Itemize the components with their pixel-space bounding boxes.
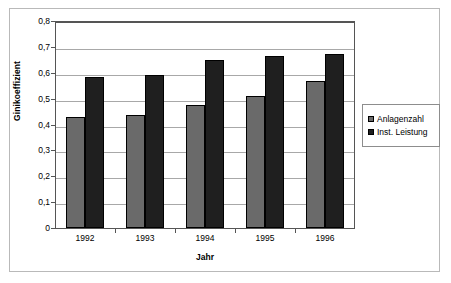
x-axis-tick-mark	[115, 229, 116, 233]
y-axis-tick-label: 0,6	[20, 69, 50, 78]
y-axis-tick-mark	[51, 228, 55, 229]
x-axis-tick-label: 1992	[62, 233, 108, 243]
legend-swatch-icon	[368, 116, 374, 122]
x-axis-tick-mark	[235, 229, 236, 233]
x-axis-tick-labels: 19921993199419951996	[55, 233, 355, 247]
x-axis-tick-mark	[295, 229, 296, 233]
chart-figure: Ginikoeffizient 00,10,20,30,40,50,60,70,…	[0, 0, 451, 283]
y-axis-tick-mark	[51, 21, 55, 22]
y-axis-tick-label: 0,3	[20, 146, 50, 155]
y-axis-tick-label: 0,2	[20, 172, 50, 181]
legend-item: Inst. Leistung	[368, 127, 435, 137]
x-axis-tick-label: 1996	[302, 233, 348, 243]
gridline	[56, 127, 354, 128]
y-axis-tick-mark	[51, 176, 55, 177]
x-axis-tick-mark	[175, 229, 176, 233]
y-axis-tick-label: 0,8	[20, 17, 50, 26]
gridline	[56, 49, 354, 50]
legend-swatch-icon	[368, 129, 374, 135]
y-axis-tick-mark	[51, 202, 55, 203]
gridline	[56, 75, 354, 76]
y-axis-tick-mark	[51, 150, 55, 151]
legend-item: Anlagenzahl	[368, 114, 435, 124]
y-axis-tick-label: 0	[20, 224, 50, 233]
chart-legend: AnlagenzahlInst. Leistung	[362, 104, 440, 147]
y-axis-tick-mark	[51, 125, 55, 126]
gridline	[56, 101, 354, 102]
y-axis-tick-label: 0,1	[20, 198, 50, 207]
y-axis-tick-label: 0,5	[20, 94, 50, 103]
y-axis-tick-label: 0,7	[20, 43, 50, 52]
legend-item-label: Anlagenzahl	[377, 114, 424, 124]
gridline	[56, 152, 354, 153]
y-axis-tick-mark	[51, 99, 55, 100]
y-axis-tick-label: 0,4	[20, 120, 50, 129]
gridline	[56, 178, 354, 179]
plot-area	[55, 21, 355, 229]
legend-item-label: Inst. Leistung	[377, 127, 428, 137]
y-axis-tick-mark	[51, 73, 55, 74]
y-axis-tick-labels: 00,10,20,30,40,50,60,70,8	[16, 21, 50, 229]
x-axis-title: Jahr	[55, 252, 355, 262]
y-axis-tick-mark	[51, 47, 55, 48]
x-axis-tick-label: 1994	[182, 233, 228, 243]
gridline	[56, 204, 354, 205]
x-axis-tick-label: 1993	[122, 233, 168, 243]
x-axis-tick-label: 1995	[242, 233, 288, 243]
